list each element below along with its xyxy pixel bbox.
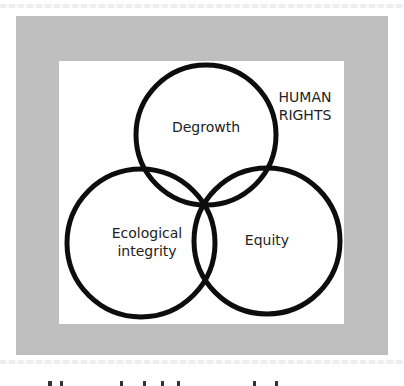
ecological-integrity-label: Ecological integrity — [104, 224, 190, 260]
human-rights-line-1: HUMAN — [270, 88, 340, 106]
equity-label: Equity — [232, 231, 302, 249]
human-rights-line-2: RIGHTS — [270, 106, 340, 124]
cropped-caption — [0, 381, 404, 386]
ecological-line-2: integrity — [104, 242, 190, 260]
ecological-line-1: Ecological — [104, 224, 190, 242]
human-rights-label: HUMAN RIGHTS — [270, 88, 340, 124]
degrowth-label: Degrowth — [166, 118, 246, 136]
venn-diagram — [0, 0, 404, 386]
